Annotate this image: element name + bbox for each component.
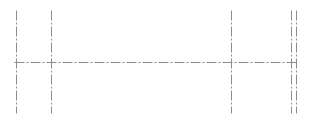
centerline-diagram — [0, 0, 311, 123]
